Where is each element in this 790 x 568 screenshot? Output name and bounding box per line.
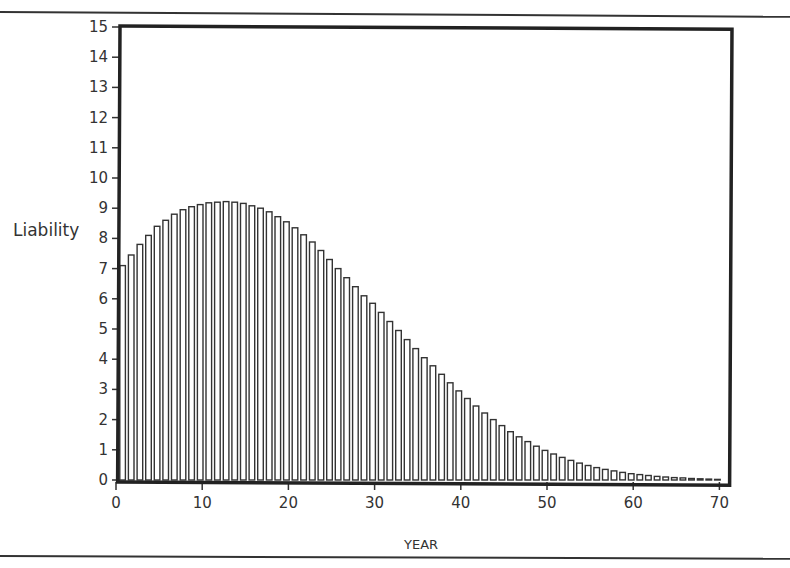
x-tick-label: 0	[111, 494, 121, 512]
x-tick-label: 50	[537, 494, 556, 512]
y-tick-label: 11	[89, 139, 108, 157]
y-tick-label: 3	[98, 380, 108, 398]
bar	[611, 471, 617, 480]
bar	[249, 206, 255, 480]
bar	[689, 479, 695, 481]
bar	[456, 391, 462, 480]
y-tick-label: 5	[98, 320, 108, 338]
bar	[310, 242, 316, 480]
bar	[232, 202, 238, 480]
bar	[318, 251, 324, 481]
y-tick-label: 1	[98, 441, 108, 459]
bar	[706, 479, 712, 480]
bar	[128, 255, 134, 480]
x-tick-label: 60	[624, 494, 643, 512]
y-tick-label: 9	[98, 199, 108, 217]
bar	[577, 463, 583, 480]
bar	[499, 426, 505, 480]
bar	[603, 469, 609, 480]
bar	[301, 235, 307, 480]
bar	[154, 226, 160, 480]
bar	[439, 374, 445, 480]
bar	[594, 468, 600, 480]
bar	[447, 383, 453, 480]
liability-bar-chart: 0123456789101112131415 010203040506070 L…	[0, 0, 790, 568]
bar	[370, 303, 376, 480]
bar	[197, 205, 203, 480]
bar	[465, 399, 471, 481]
bar	[172, 214, 178, 480]
bar	[542, 450, 548, 480]
bar	[422, 358, 428, 480]
bar	[361, 296, 367, 480]
bar	[223, 202, 229, 480]
bar	[620, 472, 626, 480]
y-tick-label: 2	[98, 411, 108, 429]
y-axis-title: Liability	[13, 220, 79, 240]
bar	[137, 244, 143, 480]
y-tick-label: 13	[89, 78, 108, 96]
bar	[672, 478, 678, 480]
bar	[551, 454, 557, 480]
bar	[241, 203, 247, 480]
bar	[180, 210, 186, 480]
x-tick-label: 30	[365, 494, 384, 512]
y-axis: 0123456789101112131415	[89, 18, 120, 489]
bar	[146, 235, 152, 480]
y-tick-label: 12	[89, 109, 108, 127]
bar	[275, 217, 281, 480]
y-tick-label: 6	[98, 290, 108, 308]
x-tick-label: 20	[279, 494, 298, 512]
bar	[663, 477, 669, 480]
y-tick-label: 4	[98, 350, 108, 368]
y-tick-label: 15	[89, 18, 108, 36]
bar	[534, 446, 540, 480]
bar	[568, 460, 574, 480]
bar	[292, 228, 298, 480]
bar	[353, 287, 359, 480]
y-tick-label: 7	[98, 260, 108, 278]
bar	[491, 420, 497, 480]
y-tick-label: 10	[89, 169, 108, 187]
bar	[327, 260, 333, 481]
bar	[715, 479, 721, 480]
x-axis: 010203040506070	[111, 482, 729, 512]
bar	[473, 406, 479, 480]
bar	[284, 222, 290, 480]
bar	[335, 269, 341, 480]
bar	[387, 322, 393, 481]
x-axis-title: YEAR	[403, 537, 438, 552]
bar	[559, 457, 565, 480]
y-tick-label: 0	[98, 471, 108, 489]
x-tick-label: 40	[451, 494, 470, 512]
bar	[258, 208, 264, 480]
bar	[646, 476, 652, 481]
bar	[628, 474, 634, 480]
bar	[525, 442, 531, 480]
y-tick-label: 8	[98, 229, 108, 247]
bar	[413, 349, 419, 480]
bar	[344, 278, 350, 480]
bar	[163, 220, 169, 480]
bar	[396, 331, 402, 481]
x-tick-label: 10	[193, 494, 212, 512]
bar	[404, 340, 410, 480]
bar	[215, 202, 221, 480]
bar	[516, 437, 522, 480]
bar	[189, 207, 195, 480]
bar	[378, 312, 384, 480]
bar	[206, 203, 212, 480]
bar	[654, 476, 660, 480]
bar	[430, 366, 436, 480]
y-tick-label: 14	[89, 48, 108, 66]
bar	[508, 432, 514, 480]
bar	[266, 212, 272, 480]
bar	[680, 478, 686, 480]
bars	[120, 202, 720, 480]
x-tick-label: 70	[710, 494, 729, 512]
bar	[585, 466, 591, 481]
bar	[637, 475, 643, 480]
bar	[482, 413, 488, 480]
bar	[697, 479, 703, 480]
bar	[120, 266, 126, 480]
